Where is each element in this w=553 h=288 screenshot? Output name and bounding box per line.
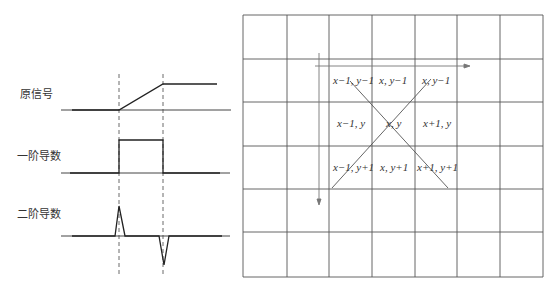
cell-bottom-center: x, y+1	[379, 161, 408, 173]
label-original-signal: 原信号	[20, 88, 53, 101]
cell-top-center: x, y−1	[378, 74, 407, 86]
neighborhood-labels: x−1, y−1 x, y−1 x, y−1 x−1, y x, y x+1, …	[332, 74, 458, 173]
cell-center: x, y	[385, 117, 401, 129]
original-signal-curve	[72, 84, 217, 110]
label-second-derivative: 二阶导数	[17, 207, 61, 221]
arrow-down-icon	[317, 199, 321, 205]
cell-mid-right: x+1, y	[422, 117, 451, 129]
second-derivative-curve	[72, 206, 222, 265]
cell-top-right: x, y−1	[421, 74, 450, 86]
signal-derivative-panel: 原信号 一阶导数 二阶导数	[17, 74, 231, 277]
cell-mid-left: x−1, y	[336, 117, 365, 129]
edge-detection-diagram: 原信号 一阶导数 二阶导数	[0, 0, 553, 288]
first-derivative-curve	[70, 140, 220, 173]
cell-top-left: x−1, y−1	[332, 74, 374, 86]
cell-bottom-left: x−1, y+1	[332, 161, 374, 173]
label-first-derivative: 一阶导数	[17, 149, 61, 163]
arrow-right-icon	[464, 64, 470, 68]
cell-bottom-right: x+1, y+1	[416, 161, 458, 173]
pixel-grid	[243, 15, 543, 277]
